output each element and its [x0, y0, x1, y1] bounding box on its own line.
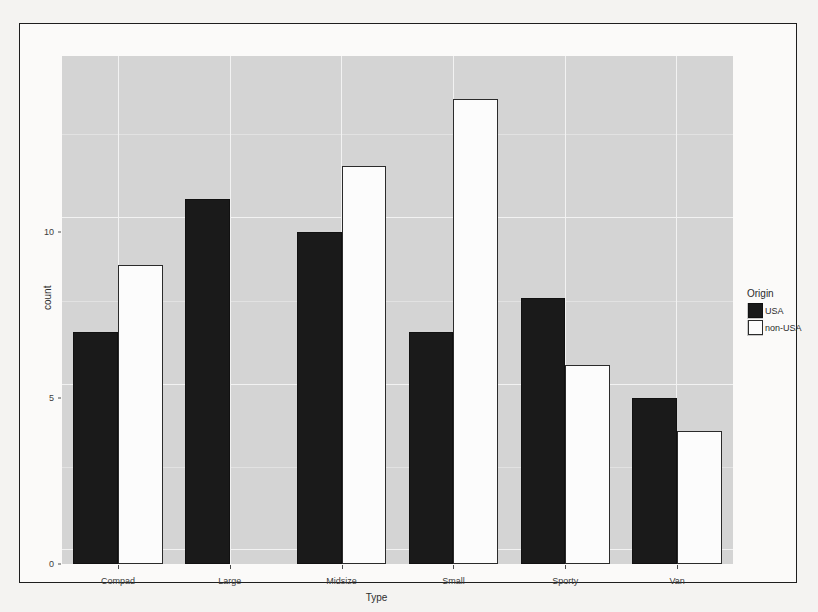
gridline-y-5	[62, 384, 733, 385]
chart-screenshot: 0510 CompadLargeMidsizeSmallSportyVan co…	[0, 0, 818, 612]
x-tick-label-compad: Compad	[101, 576, 135, 586]
x-tick-mark-van	[677, 565, 678, 569]
x-tick-mark-sporty	[565, 565, 566, 569]
x-axis-title: Type	[20, 592, 733, 603]
legend-title: Origin	[747, 288, 817, 299]
legend-item-non-usa[interactable]: non-USA	[747, 319, 817, 336]
legend: Origin USAnon-USA	[747, 288, 817, 336]
gridline-x-large	[230, 56, 231, 564]
bar-small-usa	[409, 332, 454, 564]
bar-small-non-usa	[453, 99, 498, 564]
gridline-y-12p5	[62, 134, 733, 135]
gridline-y-7p5	[62, 301, 733, 302]
plot-panel	[62, 56, 733, 564]
x-tick-label-midsize: Midsize	[326, 576, 357, 586]
x-tick-label-van: Van	[669, 576, 684, 586]
x-tick-mark-compad	[118, 565, 119, 569]
y-axis-title: count	[42, 286, 53, 310]
x-tick-mark-midsize	[342, 565, 343, 569]
bar-van-non-usa	[677, 431, 722, 564]
legend-item-usa[interactable]: USA	[747, 302, 817, 319]
bar-compad-usa	[73, 332, 118, 564]
legend-label-non-usa: non-USA	[765, 323, 802, 333]
legend-label-usa: USA	[765, 306, 784, 316]
x-tick-label-large: Large	[218, 576, 241, 586]
bar-sporty-non-usa	[565, 365, 610, 564]
bar-midsize-usa	[297, 232, 342, 564]
legend-rows: USAnon-USA	[747, 302, 817, 336]
figure-frame: 0510 CompadLargeMidsizeSmallSportyVan co…	[19, 23, 797, 583]
legend-swatch-non-usa	[748, 320, 763, 335]
legend-key-usa	[747, 303, 763, 319]
y-tick-label-5: 5	[49, 393, 54, 403]
legend-key-non-usa	[747, 320, 763, 336]
bar-compad-non-usa	[118, 265, 163, 564]
gridline-y-10	[62, 217, 733, 218]
bar-midsize-non-usa	[342, 166, 387, 564]
x-tick-mark-small	[453, 565, 454, 569]
x-tick-label-sporty: Sporty	[552, 576, 578, 586]
y-tick-label-0: 0	[49, 559, 54, 569]
legend-swatch-usa	[748, 303, 763, 318]
y-tick-label-10: 10	[44, 227, 54, 237]
bar-large-usa	[185, 199, 230, 564]
x-tick-mark-large	[230, 565, 231, 569]
bar-van-usa	[632, 398, 677, 564]
y-tick-mark-5	[58, 397, 61, 398]
y-tick-mark-0	[58, 564, 61, 565]
y-tick-mark-10	[58, 231, 61, 232]
x-tick-label-small: Small	[442, 576, 465, 586]
bar-sporty-usa	[521, 298, 566, 564]
